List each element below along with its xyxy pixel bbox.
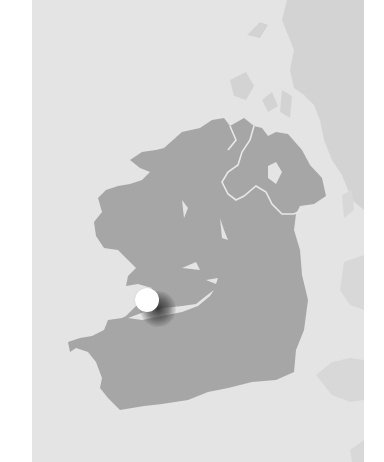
location-pin-icon[interactable] [135,288,159,312]
map-panel[interactable] [32,0,364,462]
map-canvas[interactable] [32,0,364,462]
